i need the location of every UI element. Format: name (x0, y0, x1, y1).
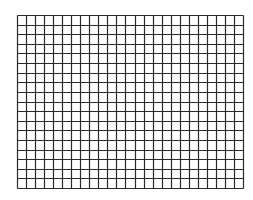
grid-lines (17, 15, 244, 189)
square-grid (17, 15, 243, 188)
